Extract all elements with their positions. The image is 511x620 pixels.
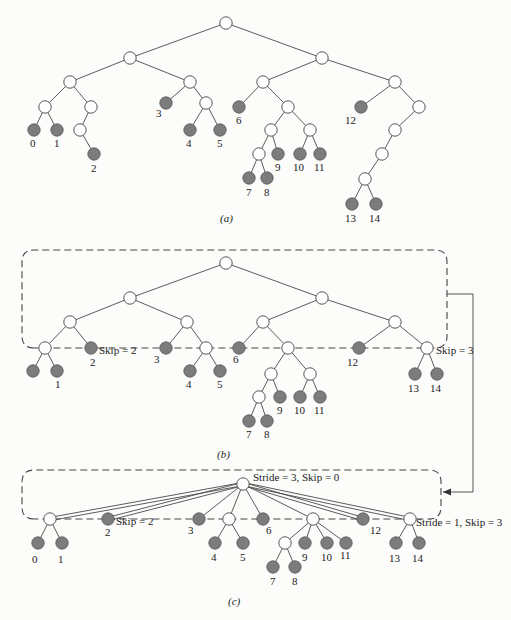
leaf-label: 10	[321, 551, 333, 563]
internal-node-icon	[124, 292, 136, 304]
leaf-node-icon	[314, 148, 326, 160]
internal-node-icon	[413, 101, 425, 113]
leaf-label: 4	[211, 551, 217, 563]
internal-node-icon	[39, 101, 51, 113]
leaf-node-icon	[32, 537, 44, 549]
leaf-label: 5	[240, 551, 246, 563]
leaf-label: 0	[30, 137, 36, 149]
leaf-label: 7	[270, 575, 276, 587]
leaf-label: 9	[302, 551, 308, 563]
internal-node-icon	[265, 124, 277, 136]
multibit-edge	[243, 482, 363, 517]
leaf-label: 13	[408, 382, 420, 394]
leaf-node-icon	[184, 124, 196, 136]
leaf-node-icon	[193, 513, 205, 525]
leaf-label: 8	[292, 575, 298, 587]
panel-c-multibit-trie: 23612014591011131478Stride = 3, Skip = 0…	[22, 470, 503, 608]
internal-node-icon	[64, 316, 76, 328]
leaf-label: 9	[275, 161, 281, 173]
leaf-label: 3	[156, 107, 162, 119]
panel-a-binary-trie: 36120145291011781314(a)	[28, 17, 425, 225]
leaf-label: 3	[154, 353, 160, 365]
leaf-node-icon	[261, 415, 273, 427]
panel-caption: (a)	[220, 212, 233, 225]
leaf-label: 11	[314, 404, 325, 416]
internal-node-icon	[184, 76, 196, 88]
leaf-node-icon	[243, 172, 255, 184]
leaf-label: 2	[90, 356, 96, 368]
leaf-node-icon	[390, 537, 402, 549]
internal-node-icon	[39, 342, 51, 354]
internal-node-icon	[257, 76, 269, 88]
leaf-node-icon	[321, 537, 333, 549]
leaf-node-icon	[85, 342, 97, 354]
leaf-node-icon	[51, 124, 63, 136]
leaf-node-icon	[370, 198, 382, 210]
leaf-node-icon	[294, 148, 306, 160]
leaf-label: 1	[58, 553, 64, 565]
tree-edge	[322, 298, 395, 322]
tree-edge	[130, 23, 226, 58]
leaf-label: 0	[32, 553, 38, 565]
leaf-node-icon	[88, 148, 100, 160]
leaf-label: 5	[217, 378, 223, 390]
internal-node-icon	[304, 124, 316, 136]
internal-node-icon	[200, 342, 212, 354]
internal-node-icon	[316, 52, 328, 64]
leaf-node-icon	[160, 97, 172, 109]
tree-edge	[130, 298, 187, 322]
internal-node-icon	[220, 17, 232, 29]
internal-node-icon	[359, 173, 371, 185]
internal-node-icon	[282, 101, 294, 113]
internal-node-icon	[253, 391, 265, 403]
leaf-node-icon	[261, 172, 273, 184]
leaf-label: 12	[347, 356, 358, 368]
internal-node-icon	[253, 148, 265, 160]
tree-edge	[226, 263, 322, 298]
leaf-node-icon	[214, 365, 226, 377]
skip-stride-annotation: Stride = 3, Skip = 0	[253, 471, 340, 483]
leaf-label: 13	[345, 212, 357, 224]
arrowhead-icon	[443, 489, 451, 496]
leaf-label: 2	[105, 526, 111, 538]
tree-edge	[130, 58, 190, 82]
skip-stride-annotation: Skip = 2	[116, 515, 153, 527]
leaf-node-icon	[51, 365, 63, 377]
leaf-node-icon	[413, 537, 425, 549]
leaf-label: 2	[91, 162, 97, 174]
leaf-label: 7	[246, 428, 252, 440]
internal-node-icon	[421, 342, 433, 354]
leaf-label: 4	[186, 378, 192, 390]
internal-node-icon	[316, 292, 328, 304]
leaf-node-icon	[346, 198, 358, 210]
leaf-label: 14	[430, 382, 442, 394]
internal-node-icon	[124, 52, 136, 64]
leaf-node-icon	[294, 391, 306, 403]
leaf-node-icon	[184, 365, 196, 377]
leaf-label: 3	[188, 524, 194, 536]
leaf-label: 14	[369, 212, 381, 224]
leaf-node-icon	[160, 342, 172, 354]
leaf-node-icon	[27, 365, 39, 377]
skip-stride-annotation: Skip = 3	[436, 344, 474, 356]
internal-node-icon	[279, 537, 291, 549]
tree-edge	[226, 23, 322, 58]
leaf-node-icon	[102, 513, 114, 525]
panel-caption: (c)	[228, 595, 241, 608]
internal-node-icon	[237, 478, 249, 490]
tree-edge	[70, 298, 130, 322]
leaf-label: 6	[236, 114, 242, 126]
leaf-node-icon	[56, 537, 68, 549]
leaf-node-icon	[314, 391, 326, 403]
internal-node-icon	[44, 513, 56, 525]
leaf-node-icon	[209, 537, 221, 549]
leaf-node-icon	[289, 561, 301, 573]
internal-node-icon	[376, 148, 388, 160]
internal-node-icon	[265, 368, 277, 380]
tree-edge	[322, 58, 395, 82]
leaf-node-icon	[243, 415, 255, 427]
leaf-node-icon	[233, 101, 245, 113]
leaf-node-icon	[357, 513, 369, 525]
tree-compression-figure: 36120145291011781314(a) 2361214513149101…	[0, 0, 511, 620]
leaf-label: 5	[217, 137, 223, 149]
